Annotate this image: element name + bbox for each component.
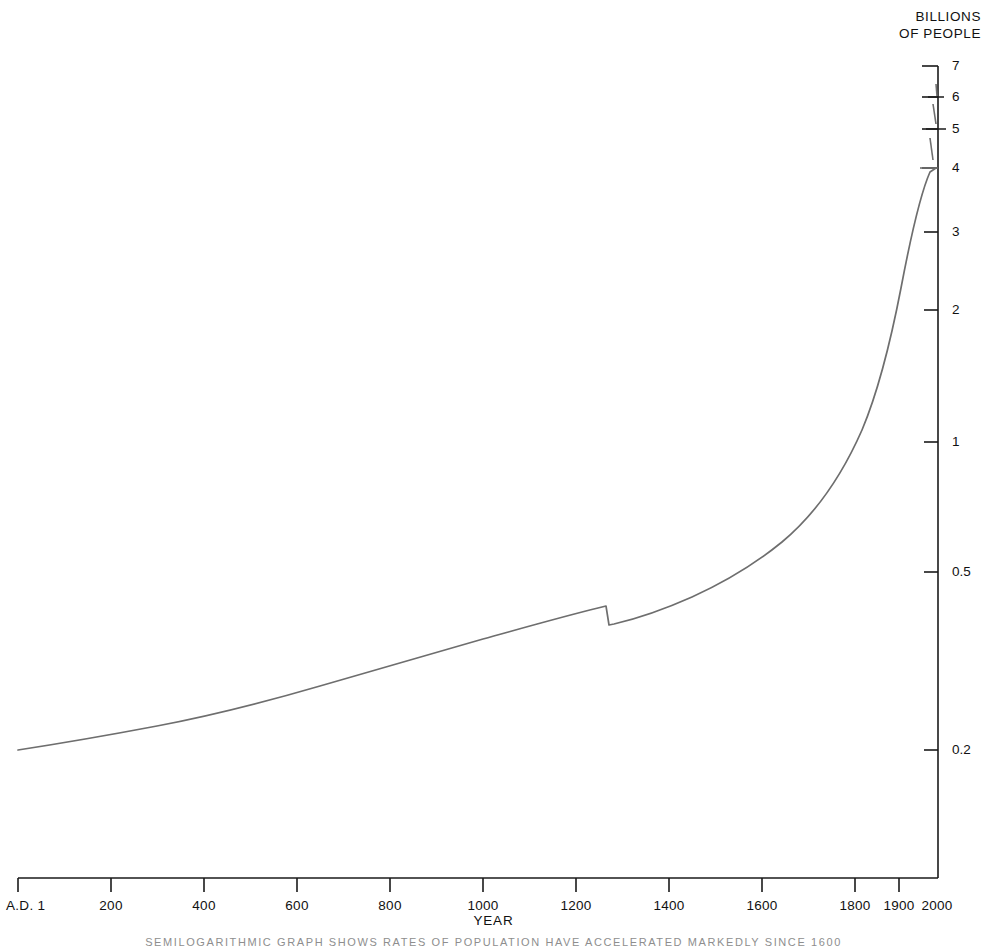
- projection-dash-2: [933, 104, 936, 124]
- figure-caption: SEMILOGARITHMIC GRAPH SHOWS RATES OF POP…: [0, 936, 987, 947]
- x-axis-ticks: [18, 878, 899, 892]
- x-tick-label-1400: 1400: [639, 898, 699, 913]
- projection-dash-3: [936, 84, 937, 96]
- y-tick-label-3: 3: [952, 224, 960, 239]
- x-tick-label-400: 400: [174, 898, 234, 913]
- y-tick-label-2: 2: [952, 302, 960, 317]
- x-tick-label-1600: 1600: [732, 898, 792, 913]
- y-tick-label-5: 5: [952, 121, 960, 136]
- y-tick-label-4: 4: [952, 160, 960, 175]
- y-tick-label-6: 6: [952, 89, 960, 104]
- population-projection: [930, 84, 937, 160]
- axis-break-marks: [926, 97, 946, 129]
- x-axis-title: YEAR: [0, 912, 987, 929]
- population-chart-figure: BILLIONS OF PEOPLE: [0, 0, 987, 947]
- y-tick-label-1: 1: [952, 434, 960, 449]
- x-tick-label-600: 600: [267, 898, 327, 913]
- x-tick-label-1000: 1000: [453, 898, 513, 913]
- population-curve: [18, 168, 936, 750]
- y-tick-label-7: 7: [952, 58, 960, 73]
- y-axis-title-line2: OF PEOPLE: [899, 25, 981, 42]
- x-tick-label-200: 200: [81, 898, 141, 913]
- y-tick-label-0p2: 0.2: [952, 742, 971, 757]
- x-tick-label-1200: 1200: [546, 898, 606, 913]
- x-tick-label-800: 800: [360, 898, 420, 913]
- x-tick-label-ad1: A.D. 1: [0, 898, 76, 913]
- x-tick-label-2000: 2000: [907, 898, 967, 913]
- plot-area: [0, 0, 987, 947]
- y-tick-label-0p5: 0.5: [952, 564, 971, 579]
- y-axis-title-line1: BILLIONS: [899, 8, 981, 25]
- y-axis-title: BILLIONS OF PEOPLE: [899, 8, 981, 42]
- projection-dash-1: [930, 138, 933, 160]
